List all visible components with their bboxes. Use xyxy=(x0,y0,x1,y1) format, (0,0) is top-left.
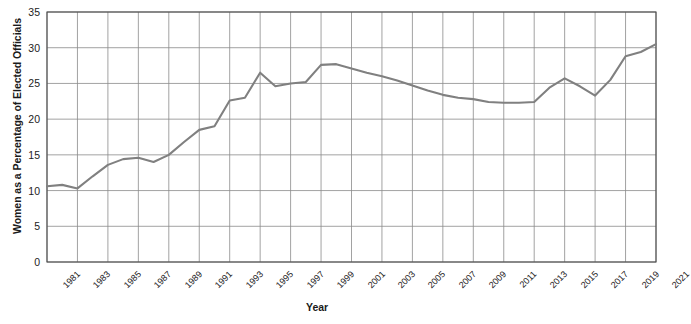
vertical-gridlines xyxy=(47,12,656,262)
